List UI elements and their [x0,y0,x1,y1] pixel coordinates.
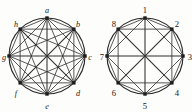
circulant-graph-8-edge [107,29,118,56]
complete-graph-k8-label-f: f [15,89,19,98]
circulant-graph-8-vertex-4 [170,81,173,84]
circulant-graph-8-vertex-8 [116,27,119,30]
complete-graph-k8-panel: abcdefgh [2,6,92,111]
circulant-graph-8-label-5: 5 [143,101,147,111]
complete-graph-k8-vertex-f [18,81,21,84]
circulant-graph-8-vertex-6 [116,81,119,84]
circulant-graph-8-edge [145,83,172,94]
circulant-graph-8-edge [107,56,118,83]
circulant-graph-8-edge [172,29,183,56]
circulant-graph-8-edge [118,18,145,29]
complete-graph-k8-vertex-a [45,16,48,19]
circulant-graph-8-vertex-1 [143,16,146,19]
complete-graph-k8-label-a: a [45,6,49,15]
complete-graph-k8-vertex-g [7,54,10,57]
complete-graph-k8-label-g: g [2,53,6,62]
graph-figure: abcdefgh 12345678 [0,0,192,112]
circulant-graph-8-label-7: 7 [100,52,105,62]
circulant-graph-8-vertex-2 [170,27,173,30]
circulant-graph-8-label-4: 4 [175,88,180,98]
complete-graph-k8-vertex-h [18,27,21,30]
graph-canvas: abcdefgh 12345678 [0,0,192,112]
circulant-graph-8-panel: 12345678 [100,5,192,111]
circulant-graph-8-label-8: 8 [112,19,116,29]
circulant-graph-8-label-3: 3 [188,52,192,62]
circulant-graph-8-vertex-5 [143,92,146,95]
complete-graph-k8-label-e: e [45,102,49,111]
complete-graph-k8-vertex-e [45,92,48,95]
circulant-graph-8-edge [118,83,145,94]
complete-graph-k8-label-h: h [14,20,18,29]
complete-graph-k8-label-b: b [76,20,80,29]
circulant-graph-8-vertex-7 [105,54,108,57]
circulant-graph-8-edge [145,18,172,29]
circulant-graph-8-label-1: 1 [143,5,147,15]
complete-graph-k8-vertex-d [72,81,75,84]
circulant-graph-8-vertex-3 [181,54,184,57]
complete-graph-k8-vertex-c [83,54,86,57]
complete-graph-k8-label-c: c [88,53,92,62]
circulant-graph-8-edge [172,56,183,83]
circulant-graph-8-label-6: 6 [112,88,117,98]
circulant-graph-8-label-2: 2 [175,19,179,29]
complete-graph-k8-label-d: d [76,89,81,98]
